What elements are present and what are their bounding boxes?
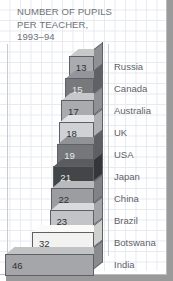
bar-front-face: 46 (5, 254, 94, 276)
bar-value-label: 46 (12, 259, 23, 272)
bar-row: 46 (5, 254, 94, 276)
country-label-usa: USA (114, 144, 134, 166)
country-label-brazil: Brazil (114, 210, 138, 232)
pupils-per-teacher-chart: NUMBER OF PUPILS PER TEACHER, 1993–94 13… (0, 0, 173, 281)
country-label-india: India (114, 254, 135, 276)
category-label-column: RussiaCanadaAustraliaUKUSAJapanChinaBraz… (114, 56, 172, 266)
country-label-china: China (114, 188, 139, 210)
country-label-japan: Japan (114, 166, 140, 188)
country-label-canada: Canada (114, 78, 147, 100)
country-label-uk: UK (114, 122, 127, 144)
chart-title: NUMBER OF PUPILS PER TEACHER, 1993–94 (17, 6, 157, 44)
country-label-botswana: Botswana (114, 232, 156, 254)
country-label-russia: Russia (114, 56, 143, 78)
country-label-australia: Australia (114, 100, 151, 122)
